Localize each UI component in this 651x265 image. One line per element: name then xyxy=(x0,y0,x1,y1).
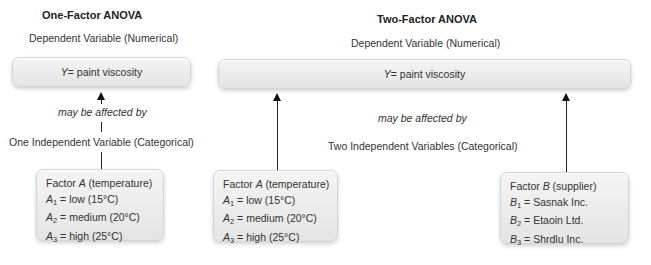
factor-level: A3 = high (25°C) xyxy=(46,229,163,248)
one-factor-title: One-Factor ANOVA xyxy=(42,9,142,21)
y-symbol: Y xyxy=(61,66,68,78)
factor-level: B1 = Sasnak Inc. xyxy=(510,195,628,214)
factor-level: A1 = low (15°C) xyxy=(46,192,163,211)
two-factor-relation: may be affected by xyxy=(378,112,467,124)
one-factor-y-box: Y = paint viscosity xyxy=(12,57,191,87)
two-factor-independent-label: Two Independent Variables (Categorical) xyxy=(328,140,518,152)
y-text: = paint viscosity xyxy=(391,68,465,80)
two-factor-dependent-label: Dependent Variable (Numerical) xyxy=(351,37,500,49)
two-factor-factor-b-box: Factor B (supplier) B1 = Sasnak Inc. B2 … xyxy=(500,172,629,244)
one-factor-factor-a-box: Factor A (temperature) A1 = low (15°C) A… xyxy=(36,169,164,241)
y-text: = paint viscosity xyxy=(68,66,142,78)
y-symbol: Y xyxy=(384,68,391,80)
two-factor-factor-a-box: Factor A (temperature) A1 = low (15°C) A… xyxy=(213,170,338,242)
connector-line xyxy=(101,98,103,104)
one-factor-independent-label: One Independent Variable (Categorical) xyxy=(9,136,194,148)
one-factor-relation: may be affected by xyxy=(58,106,147,118)
factor-level: A1 = low (15°C) xyxy=(223,193,337,212)
factor-level: A3 = high (25°C) xyxy=(223,230,337,249)
factor-heading: Factor B (supplier) xyxy=(510,179,628,195)
two-factor-y-box: Y = paint viscosity xyxy=(218,59,631,89)
factor-heading: Factor A (temperature) xyxy=(223,177,337,193)
connector-line xyxy=(566,100,568,172)
factor-level: A2 = medium (20°C) xyxy=(46,210,163,229)
connector-line xyxy=(277,100,279,170)
one-factor-dependent-label: Dependent Variable (Numerical) xyxy=(29,32,178,44)
two-factor-title: Two-Factor ANOVA xyxy=(377,13,477,25)
connector-line xyxy=(101,122,103,132)
factor-level: B2 = Etaoin Ltd. xyxy=(510,213,628,232)
factor-level: A2 = medium (20°C) xyxy=(223,211,337,230)
factor-level: B3 = Shrdlu Inc. xyxy=(510,232,628,251)
connector-line xyxy=(101,152,103,169)
factor-heading: Factor A (temperature) xyxy=(46,176,163,192)
